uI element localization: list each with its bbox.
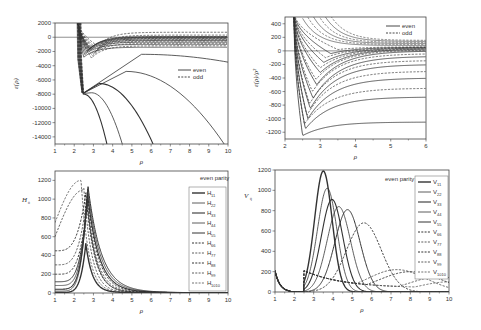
x-tick-label: 5	[389, 143, 393, 149]
legend-subscript: 55	[211, 233, 216, 238]
legend: evenodd	[386, 23, 415, 36]
y-axis-label: V	[244, 192, 249, 200]
legend-subscript: 22	[211, 203, 216, 208]
y-tick-label: 200	[261, 269, 272, 275]
x-tick-label: 5	[130, 148, 134, 154]
legend-subscript: 22	[437, 192, 442, 197]
x-tick-label: 2	[293, 296, 297, 302]
legend-subscript: 1010	[211, 283, 221, 288]
chart-top-right: 234564002000-200-400-600-800-1000-1200ρε…	[252, 10, 428, 161]
x-axis-label: ρ	[353, 153, 358, 161]
legend-subscript: 66	[211, 243, 216, 248]
annotation-even-parity: even parity	[200, 175, 229, 181]
y-tick-label: -12000	[32, 120, 51, 126]
y-tick-label: 2000	[38, 20, 52, 26]
data-series	[294, 10, 426, 135]
legend: V11V22V33V44V55V66V77V88V99V1010	[415, 176, 448, 279]
y-tick-label: 600	[41, 234, 52, 240]
legend-subscript: 66	[437, 232, 442, 237]
legend: evenodd	[178, 67, 206, 80]
y-tick-label: -6000	[36, 77, 52, 83]
x-tick-label: 7	[169, 297, 173, 303]
y-tick-label: -1000	[266, 116, 282, 122]
x-tick-label: 10	[225, 297, 232, 303]
y-tick-label: 400	[261, 248, 272, 254]
legend: H11H22H33H44H55H66H77H88H99H1010	[189, 187, 226, 291]
plot-area	[285, 10, 426, 135]
data-series	[294, 10, 426, 67]
y-tick-label: 1200	[38, 177, 52, 183]
y-axis-label: ε(ρ)/ρ²	[252, 68, 260, 87]
y-tick-label: 1000	[38, 196, 52, 202]
x-tick-label: 10	[446, 296, 453, 302]
x-tick-label: 4	[111, 297, 115, 303]
y-tick-label: -800	[269, 102, 282, 108]
y-tick-label: 400	[271, 21, 282, 27]
y-tick-label: -10000	[32, 105, 51, 111]
x-tick-label: 1	[53, 148, 57, 154]
x-axis-label: ρ	[139, 307, 144, 315]
plot-area	[55, 23, 228, 144]
x-tick-label: 6	[424, 143, 428, 149]
x-axis-label: ρ	[139, 158, 144, 166]
legend-subscript: 33	[437, 202, 442, 207]
x-tick-label: 3	[92, 148, 96, 154]
x-tick-label: 2	[73, 297, 77, 303]
x-tick-label: 6	[149, 148, 153, 154]
y-tick-label: 0	[48, 34, 52, 40]
y-tick-label: -1200	[266, 129, 282, 135]
x-axis-label: ρ	[359, 306, 364, 314]
x-tick-label: 10	[225, 148, 232, 154]
legend-label: odd	[402, 30, 412, 36]
y-axis-subscript: ij	[250, 196, 252, 201]
x-tick-label: 4	[354, 143, 358, 149]
annotation-even-parity: even parity	[385, 176, 414, 182]
x-tick-label: 4	[331, 296, 335, 302]
y-tick-label: 0	[48, 290, 52, 296]
x-tick-label: 8	[409, 296, 413, 302]
y-tick-label: -400	[269, 75, 282, 81]
y-tick-label: -2000	[36, 48, 52, 54]
y-axis-label: H	[21, 196, 28, 204]
data-series	[83, 93, 107, 144]
legend-subscript: 99	[211, 273, 216, 278]
y-tick-label: -4000	[36, 63, 52, 69]
chart-top-left: 1234567891020000-2000-4000-6000-8000-100…	[12, 20, 232, 166]
x-tick-label: 9	[207, 297, 211, 303]
y-tick-label: 1000	[258, 187, 272, 193]
y-axis-label: ε(ρ)	[12, 77, 20, 88]
legend-subscript: 88	[437, 252, 442, 257]
x-tick-label: 9	[428, 296, 432, 302]
x-tick-label: 7	[169, 148, 173, 154]
y-tick-label: 400	[41, 252, 52, 258]
legend-subscript: 99	[437, 262, 442, 267]
figure-canvas: 1234567891020000-2000-4000-6000-8000-100…	[0, 0, 481, 330]
x-tick-label: 8	[188, 148, 192, 154]
legend-label: even	[193, 67, 206, 73]
legend-subscript: 77	[437, 242, 442, 247]
data-series	[83, 93, 122, 144]
y-tick-label: -14000	[32, 134, 51, 140]
x-tick-label: 8	[188, 297, 192, 303]
x-tick-label: 1	[53, 297, 57, 303]
legend-label: odd	[193, 74, 203, 80]
data-series	[83, 54, 228, 93]
y-tick-label: -200	[269, 61, 282, 67]
x-tick-label: 5	[351, 296, 355, 302]
y-tick-label: 800	[261, 208, 272, 214]
x-tick-label: 4	[111, 148, 115, 154]
y-tick-label: 200	[41, 271, 52, 277]
legend-subscript: 55	[437, 222, 442, 227]
legend-subscript: 1010	[437, 272, 447, 277]
y-tick-label: 0	[268, 289, 272, 295]
x-tick-label: 7	[389, 296, 393, 302]
x-tick-label: 2	[73, 148, 77, 154]
x-tick-label: 6	[370, 296, 374, 302]
y-tick-label: -8000	[36, 91, 52, 97]
chart-bottom-right: 12345678910020040060080010001200ρVijeven…	[244, 167, 453, 314]
y-tick-label: 0	[278, 48, 282, 54]
x-tick-label: 9	[207, 148, 211, 154]
x-tick-label: 2	[283, 143, 287, 149]
legend-subscript: 44	[437, 212, 442, 217]
legend-label: even	[402, 23, 415, 29]
